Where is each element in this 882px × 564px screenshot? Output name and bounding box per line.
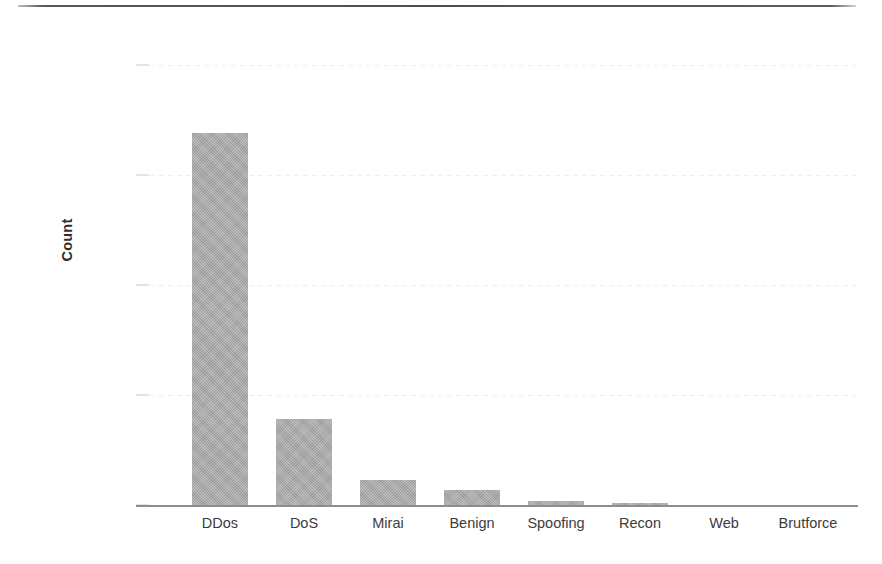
y-tick-mark [136,65,149,66]
y-tick-mark [136,395,149,396]
bar [360,480,416,505]
y-tick-mark [136,285,149,286]
x-tick-label: Recon [619,515,661,531]
bar [276,419,332,505]
bar [444,490,500,505]
bar-chart-figure: Count 010000000200000003000000040000000 … [0,0,882,564]
gridline [150,285,858,286]
x-tick-label: DDos [202,515,238,531]
x-tick-label: Brutforce [779,515,838,531]
x-axis-line [136,505,858,507]
bar [192,133,248,505]
gridline [150,175,858,176]
x-tick-label: Benign [449,515,494,531]
x-tick-label: DoS [290,515,318,531]
gridline [150,395,858,396]
y-tick-mark [136,175,149,176]
plot-area: 010000000200000003000000040000000 DDosDo… [150,43,858,505]
x-tick-label: Web [709,515,739,531]
x-tick-label: Spoofing [527,515,584,531]
gridline [150,65,858,66]
y-axis-title: Count [59,195,75,285]
x-tick-label: Mirai [372,515,403,531]
